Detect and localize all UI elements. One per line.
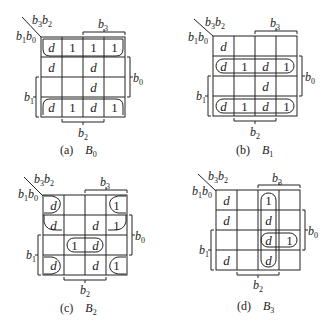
brace-label-b0: b0 bbox=[308, 225, 318, 240]
cell: d bbox=[216, 190, 237, 210]
brace-label-b3: b3 bbox=[100, 176, 110, 191]
cell bbox=[62, 77, 83, 97]
brace-label-b3: b3 bbox=[272, 172, 282, 187]
brace-label-b1: b1 bbox=[199, 244, 209, 259]
cell bbox=[276, 36, 297, 56]
brace-label-b2: b2 bbox=[253, 279, 263, 294]
brace-label-b0: b0 bbox=[133, 72, 143, 87]
cell bbox=[234, 36, 255, 56]
cell bbox=[41, 77, 62, 97]
kmap-b1: b3b2 b1b0 b3 b0 b1 b2 d d 1 d 1 d d 1 d … bbox=[165, 0, 331, 164]
cell bbox=[64, 215, 85, 235]
cell: 1 bbox=[62, 37, 83, 57]
cell: 1 bbox=[104, 97, 125, 117]
cell: d bbox=[85, 235, 106, 255]
cell bbox=[43, 235, 64, 255]
cell bbox=[237, 250, 258, 270]
map-caption: (c)B2 bbox=[60, 301, 97, 317]
cell: 1 bbox=[276, 56, 297, 76]
cell bbox=[104, 77, 125, 97]
cell: d bbox=[43, 255, 64, 275]
cell bbox=[237, 210, 258, 230]
brace-label-b2: b2 bbox=[80, 284, 90, 299]
corner-label-left: b1b0 bbox=[192, 185, 212, 200]
corner-label-left: b1b0 bbox=[16, 30, 36, 45]
cell: d bbox=[85, 255, 106, 275]
map-caption: (b)B1 bbox=[236, 143, 273, 159]
cell bbox=[279, 210, 300, 230]
cell bbox=[279, 250, 300, 270]
cell bbox=[213, 76, 234, 96]
map-caption: (d)B3 bbox=[237, 299, 274, 315]
cell bbox=[237, 190, 258, 210]
brace-label-b0: b0 bbox=[135, 230, 145, 245]
corner-label-left: b1b0 bbox=[18, 188, 38, 203]
cell: d bbox=[216, 250, 237, 270]
brace-label-b2: b2 bbox=[250, 126, 260, 141]
brace-label-b1: b1 bbox=[24, 91, 34, 106]
brace-label-b0: b0 bbox=[305, 71, 315, 86]
brace-label-b3: b3 bbox=[98, 18, 108, 33]
brace-label-b1: b1 bbox=[196, 90, 206, 105]
corner-label-top: b3b2 bbox=[205, 16, 225, 31]
cell bbox=[237, 230, 258, 250]
corner-label-top: b3b2 bbox=[32, 14, 52, 29]
cell: d bbox=[41, 57, 62, 77]
corner-label-top: b3b2 bbox=[208, 170, 228, 185]
cell: 1 bbox=[258, 190, 279, 210]
cell: 1 bbox=[279, 230, 300, 250]
cell: d bbox=[85, 215, 106, 235]
cell: 1 bbox=[276, 96, 297, 116]
cell: d bbox=[216, 210, 237, 230]
cell: d bbox=[255, 56, 276, 76]
kmap-b2: b3b2 b1b0 b3 b0 b1 b2 d 1 d d 1 1 d d d … bbox=[0, 164, 165, 328]
brace-label-b2: b2 bbox=[78, 127, 88, 142]
cell: 1 bbox=[106, 255, 127, 275]
cell: d bbox=[255, 96, 276, 116]
cell bbox=[106, 235, 127, 255]
cell: d bbox=[258, 230, 279, 250]
cell: d bbox=[41, 37, 62, 57]
cell bbox=[216, 230, 237, 250]
map-caption: (a)B0 bbox=[60, 143, 97, 159]
cell: d bbox=[83, 57, 104, 77]
cell: d bbox=[83, 77, 104, 97]
cell: 1 bbox=[234, 56, 255, 76]
cell: 1 bbox=[104, 37, 125, 57]
cell bbox=[279, 190, 300, 210]
cell: d bbox=[83, 97, 104, 117]
cell: 1 bbox=[62, 97, 83, 117]
cell bbox=[104, 57, 125, 77]
kmap-b0: b3b2 b1b0 b3 b0 b1 b2 d 1 1 1 d d d d 1 … bbox=[0, 0, 165, 164]
corner-label-top: b3b2 bbox=[34, 173, 54, 188]
cell: d bbox=[213, 96, 234, 116]
cell: d bbox=[41, 97, 62, 117]
corner-label-left: b1b0 bbox=[188, 31, 208, 46]
cell: d bbox=[43, 215, 64, 235]
cell bbox=[234, 76, 255, 96]
brace-label-b1: b1 bbox=[26, 249, 36, 264]
cell: d bbox=[258, 210, 279, 230]
cell bbox=[64, 195, 85, 215]
cell: d bbox=[213, 36, 234, 56]
cell: 1 bbox=[106, 195, 127, 215]
kmap-b3: b3b2 b1b0 b3 b0 b1 b2 d 1 d d d 1 d d (d… bbox=[165, 164, 331, 328]
cell bbox=[64, 255, 85, 275]
cell: 1 bbox=[106, 215, 127, 235]
cell: 1 bbox=[234, 96, 255, 116]
cell: d bbox=[258, 250, 279, 270]
cell: d bbox=[43, 195, 64, 215]
cell: d bbox=[255, 76, 276, 96]
cell bbox=[62, 57, 83, 77]
cell bbox=[276, 76, 297, 96]
cell bbox=[255, 36, 276, 56]
brace-label-b3: b3 bbox=[270, 17, 280, 32]
cell bbox=[85, 195, 106, 215]
cell: 1 bbox=[83, 37, 104, 57]
cell: 1 bbox=[64, 235, 85, 255]
cell: d bbox=[213, 56, 234, 76]
